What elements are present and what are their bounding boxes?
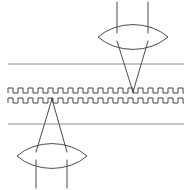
- reference-lines-group: [8, 64, 184, 124]
- lower-lens-upper-surface: [17, 144, 87, 156]
- lower-source-point: [51, 98, 53, 100]
- upper-lens-upper-surface: [98, 25, 168, 37]
- lenses-group: [17, 25, 168, 169]
- gratings-group: [8, 88, 184, 103]
- rays-group: [36, 2, 148, 188]
- optics-diagram-canvas: [0, 0, 192, 190]
- lower-grating: [8, 98, 184, 103]
- upper-focal-point: [132, 91, 134, 93]
- upper-grating: [8, 88, 184, 93]
- upper-lens-lower-surface: [98, 37, 168, 49]
- lower-lens-lower-surface: [17, 156, 87, 168]
- optics-ray-diagram: [0, 0, 192, 190]
